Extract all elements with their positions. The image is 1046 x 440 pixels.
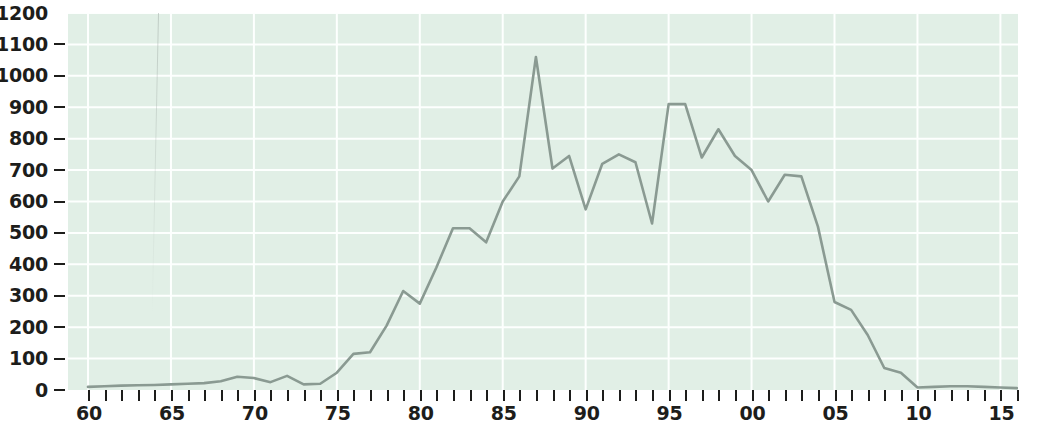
x-axis-tick-label-15: 15	[988, 404, 1014, 423]
x-axis-tick-label-80: 80	[408, 404, 434, 423]
x-axis-tick-2010	[917, 390, 919, 401]
x-axis-tick-2015	[1000, 390, 1002, 401]
line-chart: 0100200300400500600700800900100011001200…	[0, 0, 1046, 440]
y-axis-tick-mark	[54, 75, 65, 77]
x-axis-tick-label-70: 70	[242, 404, 268, 423]
x-axis-tick-label-75: 75	[325, 404, 351, 423]
y-axis-tick-label: 1000	[0, 66, 48, 85]
x-axis-tick-1966	[188, 390, 190, 401]
x-axis-tick-2000	[752, 390, 754, 401]
plot-area	[68, 13, 1018, 390]
x-axis-tick-1961	[105, 390, 107, 401]
x-axis-tick-2016	[1017, 390, 1019, 401]
x-axis-tick-1962	[121, 390, 123, 401]
x-axis-tick-2001	[768, 390, 770, 401]
x-axis-tick-2014	[984, 390, 986, 401]
x-axis-tick-1984	[486, 390, 488, 401]
x-axis-tick-1967	[204, 390, 206, 401]
x-axis-tick-label-00: 00	[740, 404, 766, 423]
x-axis-tick-1996	[685, 390, 687, 401]
y-axis-tick-label: 900	[9, 98, 48, 117]
y-axis-tick-label: 300	[9, 286, 48, 305]
x-axis-tick-1976	[353, 390, 355, 401]
x-axis-tick-2011	[934, 390, 936, 401]
x-axis-tick-2012	[951, 390, 953, 401]
x-axis-tick-1972	[287, 390, 289, 401]
y-axis-tick-mark	[54, 106, 65, 108]
x-axis-tick-2007	[868, 390, 870, 401]
y-axis-tick-label: 1200	[0, 4, 48, 23]
x-axis-tick-2004	[818, 390, 820, 401]
y-axis-tick-mark	[54, 263, 65, 265]
x-axis-tick-label-05: 05	[822, 404, 848, 423]
x-axis-tick-1995	[669, 390, 671, 401]
x-axis-tick-1970	[254, 390, 256, 401]
y-axis-tick-mark	[54, 326, 65, 328]
x-axis-tick-1991	[602, 390, 604, 401]
x-axis-tick-1983	[470, 390, 472, 401]
y-axis-tick-label: 100	[9, 349, 48, 368]
x-axis-tick-label-60: 60	[76, 404, 102, 423]
x-axis-tick-1980	[420, 390, 422, 401]
y-axis-tick-label: 500	[9, 223, 48, 242]
horizontal-gridlines	[68, 13, 1018, 359]
x-axis-tick-1969	[237, 390, 239, 401]
y-axis-tick-mark	[54, 12, 65, 14]
y-axis-tick-mark	[54, 295, 65, 297]
x-axis-tick-label-10: 10	[905, 404, 931, 423]
x-axis-tick-2003	[801, 390, 803, 401]
x-axis-tick-1998	[718, 390, 720, 401]
x-axis-tick-1981	[436, 390, 438, 401]
x-axis-tick-1977	[370, 390, 372, 401]
x-axis-tick-2002	[785, 390, 787, 401]
y-axis-tick-mark	[54, 43, 65, 45]
x-axis-tick-2008	[884, 390, 886, 401]
x-axis-tick-1999	[735, 390, 737, 401]
x-axis-tick-label-85: 85	[491, 404, 517, 423]
y-axis-tick-mark	[54, 201, 65, 203]
x-axis-tick-1997	[702, 390, 704, 401]
x-axis-tick-1988	[553, 390, 555, 401]
x-axis-tick-1974	[320, 390, 322, 401]
x-axis-tick-1960	[88, 390, 90, 401]
y-axis-tick-label: 800	[9, 129, 48, 148]
x-axis-tick-1964	[154, 390, 156, 401]
y-axis: 0100200300400500600700800900100011001200	[0, 0, 68, 440]
x-axis-tick-1979	[403, 390, 405, 401]
x-axis-tick-1985	[503, 390, 505, 401]
y-axis-tick-label: 200	[9, 318, 48, 337]
x-axis-tick-1973	[304, 390, 306, 401]
x-axis-tick-1992	[619, 390, 621, 401]
y-axis-tick-label: 600	[9, 192, 48, 211]
x-axis-tick-label-65: 65	[159, 404, 185, 423]
x-axis-tick-2005	[835, 390, 837, 401]
x-axis-tick-label-95: 95	[657, 404, 683, 423]
x-axis: 606570758085909500051015	[0, 390, 1046, 440]
x-axis-tick-label-90: 90	[574, 404, 600, 423]
y-axis-tick-mark	[54, 358, 65, 360]
x-axis-tick-1978	[387, 390, 389, 401]
x-axis-tick-2009	[901, 390, 903, 401]
x-axis-tick-1989	[569, 390, 571, 401]
x-axis-tick-1971	[270, 390, 272, 401]
y-axis-tick-mark	[54, 232, 65, 234]
y-axis-tick-mark	[54, 169, 65, 171]
y-axis-tick-mark	[54, 138, 65, 140]
x-axis-tick-1965	[171, 390, 173, 401]
x-axis-tick-1975	[337, 390, 339, 401]
x-axis-tick-1990	[586, 390, 588, 401]
y-axis-tick-label: 400	[9, 255, 48, 274]
plot-svg	[68, 13, 1018, 390]
y-axis-tick-label: 1100	[0, 35, 48, 54]
x-axis-tick-1993	[635, 390, 637, 401]
x-axis-tick-1968	[221, 390, 223, 401]
x-axis-tick-1994	[652, 390, 654, 401]
x-axis-tick-2006	[851, 390, 853, 401]
x-axis-tick-1987	[536, 390, 538, 401]
x-axis-tick-1986	[519, 390, 521, 401]
x-axis-tick-1982	[453, 390, 455, 401]
x-axis-tick-1963	[138, 390, 140, 401]
y-axis-tick-label: 700	[9, 161, 48, 180]
x-axis-tick-2013	[967, 390, 969, 401]
